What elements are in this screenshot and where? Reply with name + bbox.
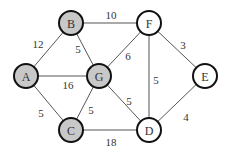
edge-weight-b-g: 5 (75, 43, 81, 55)
edge-weight-g-d: 5 (126, 95, 132, 107)
node-f: F (137, 11, 161, 35)
node-label-g: G (95, 70, 104, 84)
node-c: C (59, 118, 83, 142)
node-d: D (137, 118, 161, 142)
edge-weight-d-e: 4 (183, 111, 189, 123)
edge-weight-f-e: 3 (180, 39, 186, 51)
edge-weight-a-c: 5 (38, 107, 44, 119)
weighted-graph-diagram: 1216551065553184 ABCGFDE (0, 0, 231, 157)
node-label-d: D (145, 124, 154, 138)
edge-weight-g-c: 5 (88, 104, 94, 116)
node-label-e: E (201, 70, 208, 84)
node-label-c: C (67, 124, 75, 138)
node-g: G (87, 64, 111, 88)
node-label-f: F (146, 17, 153, 31)
node-b: B (59, 11, 83, 35)
node-e: E (193, 64, 217, 88)
node-label-b: B (67, 17, 75, 31)
edges-layer (26, 23, 205, 130)
node-label-a: A (22, 70, 31, 84)
edge-weight-a-b: 12 (33, 38, 44, 50)
node-a: A (14, 64, 38, 88)
edge-weight-g-f: 6 (125, 50, 131, 62)
edge-weight-b-f: 10 (106, 9, 118, 21)
edge-weight-c-d: 18 (106, 136, 118, 148)
edge-weight-f-d: 5 (153, 74, 159, 86)
edge-weight-a-g: 16 (63, 79, 75, 91)
